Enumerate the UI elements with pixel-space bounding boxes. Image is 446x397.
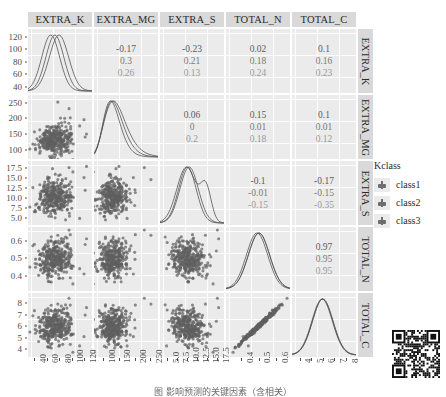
strip-right-extra-mg: EXTRA_MG — [358, 95, 373, 159]
panel-extra_k-extra_s-correlation: -0.230.210.13 — [160, 29, 224, 93]
strip-right-label: EXTRA_MG — [360, 98, 371, 155]
panel-extra_k-extra_k-diagonal — [28, 29, 92, 93]
y-axis-tick-label: 10.0 — [6, 193, 22, 203]
scatter-points — [94, 161, 158, 225]
correlation-class1: 0.97 — [316, 242, 333, 253]
legend-key-icon — [374, 214, 390, 228]
legend: Kclass class1 class2 class3 — [374, 160, 446, 231]
strip-top-label: TOTAL_C — [300, 14, 347, 25]
panel-extra_k-total_n-correlation: 0.020.180.24 — [226, 29, 290, 93]
strip-right-label: TOTAL_C — [360, 302, 371, 348]
x-axis-tick-label: 5.0 — [171, 352, 181, 363]
y-axis-tick-mark — [25, 149, 28, 150]
correlation-values: 0.10.160.23 — [292, 29, 356, 93]
strip-right-total-c: TOTAL_C — [358, 293, 373, 357]
panel-extra_s-total_c-correlation: -0.17-0.15-0.35 — [292, 161, 356, 225]
y-axis-tick-label: 80 — [13, 57, 22, 67]
density-curves — [226, 227, 290, 291]
x-axis-tick-mark — [187, 358, 188, 361]
x-axis-tick-label: 17.5 — [221, 347, 231, 363]
x-axis-tick-label: 100 — [75, 350, 85, 364]
legend-item-class3[interactable]: class3 — [374, 213, 446, 228]
y-axis-tick-label: 60 — [13, 69, 22, 79]
x-axis-tick-mark — [59, 358, 60, 361]
y-axis-tick-label: 100 — [9, 44, 23, 54]
panel-extra_s-total_n-correlation: -0.1-0.01-0.15 — [226, 161, 290, 225]
y-axis-tick-label: 12.5 — [6, 183, 22, 193]
correlation-class3: 0.18 — [250, 134, 267, 145]
strip-right-label: TOTAL_N — [360, 236, 371, 282]
correlation-values: -0.170.30.26 — [94, 29, 158, 93]
correlation-class1: -0.17 — [116, 44, 136, 55]
correlation-class3: -0.35 — [314, 200, 334, 211]
correlation-class3: 0.13 — [184, 68, 201, 79]
strip-right-label: EXTRA_S — [360, 170, 371, 216]
strip-top-label: EXTRA_S — [168, 14, 216, 25]
correlation-class3: 0.95 — [316, 266, 333, 277]
y-axis-tick-mark — [25, 349, 28, 350]
panel-extra_mg-total_n-correlation: 0.150.010.18 — [226, 95, 290, 159]
correlation-values: 0.020.180.24 — [226, 29, 290, 93]
x-axis-tick-mark — [135, 358, 136, 361]
legend-item-label: class2 — [396, 197, 420, 208]
y-axis-tick-mark — [25, 118, 28, 119]
y-axis-tick-mark — [25, 74, 28, 75]
correlation-class2: 0.21 — [184, 56, 201, 67]
y-axis-tick-mark — [25, 168, 28, 169]
x-axis-tick-mark — [334, 358, 335, 361]
y-axis-tick-label: 7.5 — [11, 203, 22, 213]
x-axis-tick-label: 8 — [350, 359, 360, 364]
scatter-points — [28, 161, 92, 225]
y-axis-tick-label: 8 — [18, 298, 23, 308]
x-axis-tick-mark — [217, 358, 218, 361]
legend-item-class2[interactable]: class2 — [374, 195, 446, 210]
y-axis-tick-mark — [25, 36, 28, 37]
y-axis-tick-label: 15.0 — [6, 173, 22, 183]
legend-key-icon — [374, 178, 390, 192]
strip-top-total-c: TOTAL_C — [292, 12, 356, 27]
correlation-values: -0.17-0.15-0.35 — [292, 161, 356, 225]
x-axis-tick-label: 7.5 — [181, 352, 191, 363]
x-axis-tick-mark — [84, 358, 85, 361]
y-axis-tick-label: 7 — [18, 310, 23, 320]
x-axis-tick-mark — [72, 358, 73, 361]
y-axis-tick-mark — [25, 302, 28, 303]
correlation-class3: 0.26 — [118, 68, 135, 79]
y-axis-tick-mark — [25, 198, 28, 199]
scatter-points — [226, 293, 290, 357]
y-axis-tick-mark — [25, 337, 28, 338]
correlation-class2: 0.95 — [316, 254, 333, 265]
correlation-values: -0.230.210.13 — [160, 29, 224, 93]
panel-total_c-total_n-scatter — [226, 293, 290, 357]
strip-right-extra-k: EXTRA_K — [358, 29, 373, 93]
x-axis-tick-mark — [323, 358, 324, 361]
correlation-class2: 0.01 — [316, 122, 333, 133]
x-axis-tick-label: 10.0 — [191, 347, 201, 363]
panel-total_n-extra_k-scatter — [28, 227, 92, 291]
x-axis-tick-label: 0.4 — [245, 352, 255, 363]
density-curves — [292, 293, 356, 357]
correlation-class1: -0.1 — [250, 176, 265, 187]
qr-code-image — [392, 330, 440, 378]
density-curves — [94, 95, 158, 159]
correlation-class2: 0.16 — [316, 56, 333, 67]
figure-caption: 图 影响预测的关键因素（含相关） — [0, 385, 446, 397]
y-axis-tick-label: 200 — [9, 113, 23, 123]
y-axis-tick-label: 40 — [13, 82, 22, 92]
strip-top-label: EXTRA_MG — [97, 14, 156, 25]
x-axis-tick-mark — [167, 358, 168, 361]
scatter-points — [28, 227, 92, 291]
panel-extra_s-extra_k-scatter — [28, 161, 92, 225]
panel-total_n-total_n-diagonal — [226, 227, 290, 291]
y-axis-tick-mark — [25, 240, 28, 241]
y-axis-tick-label: 0.6 — [11, 236, 22, 246]
scatter-points — [28, 293, 92, 357]
y-axis-tick-label: 250 — [9, 98, 23, 108]
y-axis-tick-mark — [25, 188, 28, 189]
y-axis-tick-mark — [25, 326, 28, 327]
correlation-class1: -0.23 — [182, 44, 202, 55]
y-axis-tick-mark — [25, 218, 28, 219]
x-axis-tick-mark — [177, 358, 178, 361]
density-curves — [28, 29, 92, 93]
legend-item-class1[interactable]: class1 — [374, 177, 446, 192]
